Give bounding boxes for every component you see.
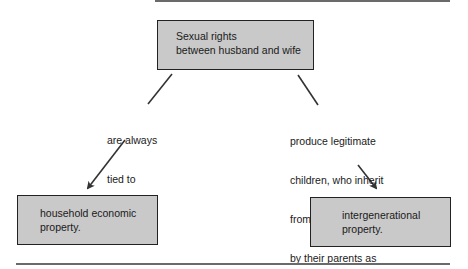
edge-label-right-line1: produce legitimate	[290, 135, 398, 148]
node-intergenerational-property: intergenerational property.	[310, 197, 451, 247]
node-household-economic-property: household economic property.	[17, 195, 158, 245]
node-intergenerational-line1: intergenerational	[342, 208, 420, 222]
edge-label-right-line2: children, who inherit	[290, 174, 398, 187]
edge-label-left-line1: are always	[107, 134, 157, 147]
bottom-rule	[16, 263, 450, 265]
edge-label-left-line2: tied to	[107, 173, 157, 186]
node-intergenerational-line2: property.	[342, 222, 383, 236]
node-household-line2: property.	[40, 220, 81, 234]
node-household-line1: household economic	[40, 206, 136, 220]
edge-label-left: are always tied to	[107, 108, 157, 199]
